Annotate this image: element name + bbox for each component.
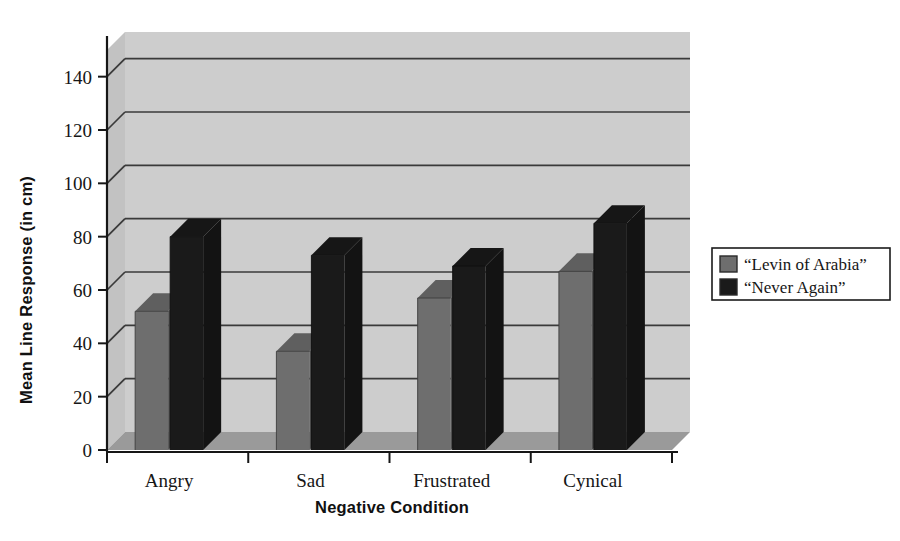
y-tick-label: 60 — [73, 280, 92, 301]
y-axis-title: Mean Line Response (in cm) — [17, 176, 35, 404]
y-tick-label: 100 — [64, 173, 93, 194]
y-tick-label: 20 — [73, 387, 92, 408]
bar — [311, 237, 362, 450]
y-tick-label: 140 — [64, 67, 93, 88]
chart-svg: 020406080100120140 AngrySadFrustratedCyn… — [0, 0, 900, 541]
legend-label: “Never Again” — [744, 278, 845, 297]
x-tick-label: Angry — [145, 470, 194, 491]
bar — [170, 219, 221, 450]
x-tick-label: Sad — [296, 470, 325, 491]
y-tick-label: 80 — [73, 227, 92, 248]
x-tick-label: Frustrated — [413, 470, 491, 491]
legend-swatch — [720, 256, 737, 272]
y-tick-label: 0 — [83, 440, 93, 461]
legend: “Levin of Arabia”“Never Again” — [712, 248, 890, 300]
x-axis-title: Negative Condition — [315, 498, 469, 516]
legend-swatch — [720, 279, 737, 295]
bar — [594, 205, 645, 450]
bar — [453, 248, 504, 450]
bar-chart-figure: 020406080100120140 AngrySadFrustratedCyn… — [0, 0, 900, 541]
x-tick-label: Cynical — [563, 470, 622, 491]
y-tick-label: 40 — [73, 333, 92, 354]
y-tick-label: 120 — [64, 120, 93, 141]
legend-label: “Levin of Arabia” — [744, 255, 867, 274]
